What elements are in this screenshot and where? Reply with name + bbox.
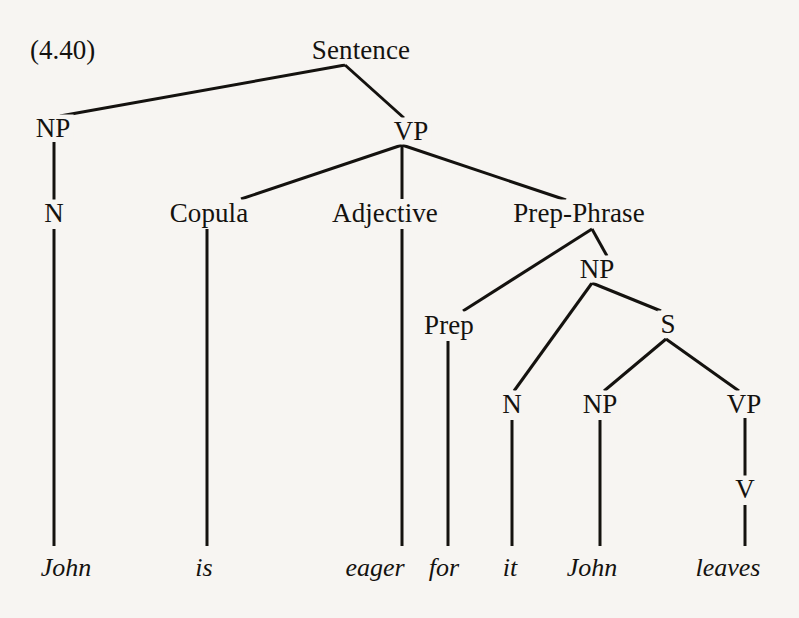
node-prep: Prep [421, 312, 477, 339]
node-vp-embedded: VP [724, 391, 765, 418]
node-copula: Copula [167, 200, 252, 227]
node-vp-main: VP [391, 118, 432, 145]
leaf-word: is [195, 555, 212, 581]
node-np-subject: NP [33, 115, 74, 142]
node-sentence: Sentence [309, 37, 413, 64]
node-np-john2: NP [580, 391, 621, 418]
leaf-word: it [503, 555, 517, 581]
leaf-word: eager [345, 555, 404, 581]
node-v-leaves: V [732, 476, 758, 503]
node-adjective: Adjective [329, 200, 441, 227]
leaf-word: John [41, 555, 92, 581]
node-n-subject: N [41, 200, 67, 227]
node-n-it: N [499, 391, 525, 418]
node-prep-phrase: Prep-Phrase [510, 200, 648, 227]
leaf-word: for [429, 555, 459, 581]
node-s-embedded: S [657, 311, 678, 338]
leaf-word: John [567, 555, 618, 581]
figure-canvas: (4.40) Sentence NP VP N Copula Adjective… [0, 0, 799, 618]
node-np-embedded: NP [577, 256, 618, 283]
leaf-word: leaves [696, 555, 761, 581]
tree-nodes: (4.40) Sentence NP VP N Copula Adjective… [0, 0, 799, 618]
example-number: (4.40) [30, 37, 95, 64]
